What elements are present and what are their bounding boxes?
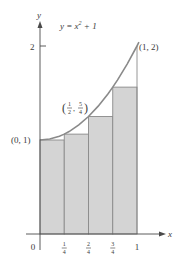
svg-text:4: 4 [63, 249, 66, 255]
svg-text:4: 4 [111, 249, 114, 255]
x-tick-label: 1 [135, 242, 140, 252]
riemann-rectangle [64, 134, 88, 234]
y-axis-label: y [36, 10, 41, 20]
x-axis-label: x [167, 229, 172, 239]
svg-text:(: ( [62, 101, 66, 115]
riemann-rectangle [113, 87, 137, 234]
riemann-rectangle [40, 140, 64, 234]
svg-text:1: 1 [68, 101, 71, 107]
y-axis-arrow-icon [38, 21, 43, 28]
svg-text:4: 4 [79, 109, 82, 115]
chart-title: y = x2 + 1 [59, 20, 97, 31]
riemann-rectangle [89, 117, 113, 235]
annotation-0-1: (0, 1) [11, 135, 31, 145]
svg-text:): ) [84, 101, 88, 115]
annotation-half-five-quarters: ( 1 2 , 5 4 ) [62, 101, 88, 115]
svg-text:2: 2 [87, 241, 90, 247]
riemann-rectangles [40, 46, 137, 234]
svg-text:4: 4 [87, 249, 90, 255]
x-axis-arrow-icon [159, 232, 166, 237]
annotation-1-2: (1, 2) [139, 42, 159, 52]
riemann-sum-chart: y x y = x2 + 1 (0, 1) (1, 2) ( 1 2 , 5 4… [0, 0, 183, 264]
x-tick-label: 0 [31, 242, 36, 252]
x-tick-label: 34 [110, 241, 115, 255]
svg-text:3: 3 [111, 241, 114, 247]
x-tick-label: 14 [62, 241, 67, 255]
svg-text:,: , [73, 104, 75, 113]
svg-text:5: 5 [79, 101, 82, 107]
y-tick-label: 2 [30, 42, 35, 52]
svg-text:2: 2 [68, 109, 71, 115]
svg-text:1: 1 [63, 241, 66, 247]
x-tick-label: 24 [86, 241, 91, 255]
